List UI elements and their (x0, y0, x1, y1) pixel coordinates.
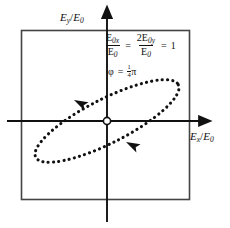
y-axis-label: Ey/E0 (60, 12, 84, 24)
origin-circle-icon (103, 117, 110, 124)
lower-right-direction-arrow (124, 138, 141, 153)
eq-equals-1: = (121, 40, 135, 51)
phase-annotation: φ = 1 4 π (108, 64, 136, 79)
eq-first-denom-sub: 0 (114, 50, 118, 59)
upper-left-direction-arrow (72, 96, 89, 111)
eq-second-denom-sub: 0 (147, 50, 151, 59)
eq-first-numer-sub: 0x (112, 36, 119, 45)
amplitude-equation-second-fraction: 2E0y E0 (135, 33, 157, 59)
eq-second-numer-sub: 0y (148, 36, 155, 45)
x-axis-label-over-sub: 0 (210, 135, 214, 144)
phase-denominator: 4 (127, 71, 130, 79)
eq-result: 1 (171, 40, 176, 51)
phase-pi: π (131, 66, 136, 77)
amplitude-equation-first-fraction: E0x E0 (104, 33, 121, 59)
y-axis-label-over-sub: 0 (80, 16, 84, 25)
x-axis-label: Ex/E0 (190, 131, 214, 143)
phase-equals: = (114, 66, 128, 77)
y-axis-label-symbol: E (60, 11, 67, 23)
eq-equals-2: = (157, 40, 171, 51)
x-axis-label-over-symbol: E (203, 130, 210, 142)
phase-fraction: 1 4 (127, 64, 130, 79)
x-axis-label-symbol: E (190, 130, 197, 142)
y-axis-label-over-symbol: E (73, 11, 80, 23)
polarization-ellipse-figure: Ey/E0 Ex/E0 E0x E0 = 2E0y E0 = 1 φ = 1 4… (0, 0, 230, 228)
amplitude-equation: E0x E0 = 2E0y E0 = 1 (104, 33, 176, 59)
